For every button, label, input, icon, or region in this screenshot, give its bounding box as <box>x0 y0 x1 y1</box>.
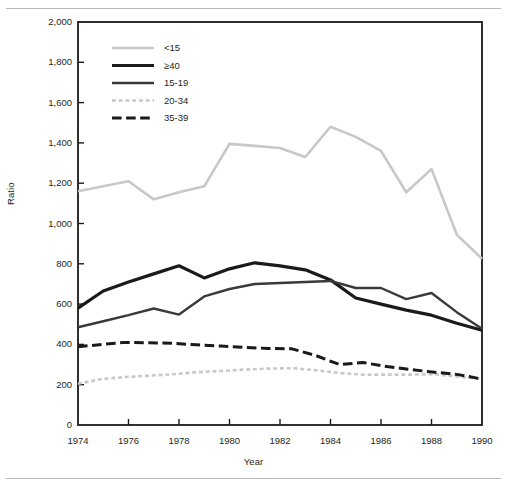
y-tick-label: 0 <box>30 419 72 430</box>
y-tick-label: 2,000 <box>30 16 72 27</box>
legend-label-1519[interactable]: 15-19 <box>164 77 188 88</box>
x-tick-label: 1976 <box>106 435 152 446</box>
y-tick-label: 800 <box>30 258 72 269</box>
line-chart-plot <box>0 0 507 485</box>
y-tick-label: 200 <box>30 379 72 390</box>
legend-label-3539[interactable]: 35-39 <box>164 112 188 123</box>
y-tick-label: 1,600 <box>30 97 72 108</box>
x-tick-label: 1988 <box>409 435 455 446</box>
x-tick-label: 1978 <box>156 435 202 446</box>
legend-label-40[interactable]: ≥40 <box>164 60 180 71</box>
x-tick-label: 1974 <box>55 435 101 446</box>
y-tick-label: 400 <box>30 338 72 349</box>
x-tick-label: 1982 <box>257 435 303 446</box>
legend-label-2034[interactable]: 20-34 <box>164 95 188 106</box>
y-tick-label: 1,200 <box>30 177 72 188</box>
y-tick-label: 1,000 <box>30 218 72 229</box>
y-tick-label: 1,400 <box>30 137 72 148</box>
x-tick-label: 1984 <box>308 435 354 446</box>
legend-label-15[interactable]: <15 <box>164 42 180 53</box>
y-tick-label: 600 <box>30 298 72 309</box>
x-tick-label: 1980 <box>207 435 253 446</box>
figure-container: Ratio Year 02004006008001,0001,2001,4001… <box>0 0 507 485</box>
x-tick-label: 1986 <box>358 435 404 446</box>
x-tick-label: 1990 <box>459 435 505 446</box>
y-tick-label: 1,800 <box>30 56 72 67</box>
